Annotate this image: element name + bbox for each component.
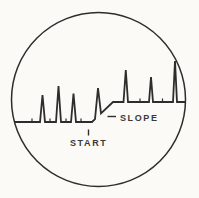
start-label: START [70, 138, 107, 148]
scope-screen-svg: SLOPE START [0, 0, 199, 198]
waveform-trace [15, 61, 186, 122]
slope-label: SLOPE [120, 113, 159, 123]
oscilloscope-figure: SLOPE START [0, 0, 199, 198]
